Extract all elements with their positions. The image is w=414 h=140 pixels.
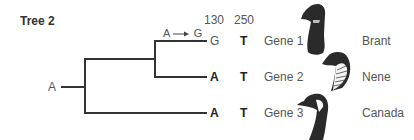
gene2-pos130: A bbox=[210, 71, 219, 83]
brant-goose-head-icon bbox=[301, 4, 325, 55]
gene1-label: Gene 1 bbox=[264, 35, 303, 47]
species-brant: Brant bbox=[362, 35, 391, 47]
mutation-label: A G bbox=[163, 28, 202, 39]
species-nene: Nene bbox=[362, 71, 391, 83]
gene2-label: Gene 2 bbox=[264, 71, 303, 83]
nene-goose-head-icon bbox=[322, 52, 350, 91]
gene3-label: Gene 3 bbox=[264, 107, 303, 119]
position-header-130: 130 bbox=[204, 14, 224, 26]
gene3-pos250: T bbox=[240, 107, 247, 119]
mutation-from: A bbox=[163, 27, 170, 39]
position-header-250: 250 bbox=[234, 14, 254, 26]
gene1-pos130: G bbox=[210, 35, 219, 47]
root-state-label: A bbox=[48, 81, 56, 93]
gene2-pos250: T bbox=[240, 71, 247, 83]
species-canada: Canada bbox=[362, 107, 404, 119]
mutation-to: G bbox=[194, 27, 203, 39]
gene3-pos130: A bbox=[210, 107, 219, 119]
gene1-pos250: T bbox=[240, 35, 247, 47]
